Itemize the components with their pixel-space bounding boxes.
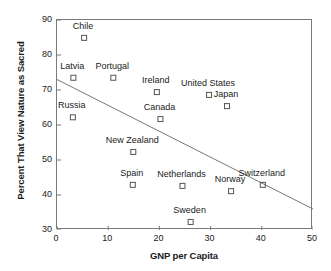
data-point-label: Chile — [73, 22, 94, 31]
scatter-chart-figure: Percent That View Nature as Sacred 30405… — [0, 0, 331, 271]
data-point-label: Portugal — [96, 62, 130, 71]
data-point-marker[interactable] — [207, 92, 212, 97]
data-point-marker[interactable] — [130, 182, 135, 187]
data-point-marker[interactable] — [224, 104, 229, 109]
data-point-marker[interactable] — [180, 183, 185, 188]
data-point-marker[interactable] — [82, 35, 87, 40]
data-point-label: Spain — [120, 169, 143, 178]
y-axis-tick-label: 90 — [26, 15, 52, 24]
data-point-label: Switzerland — [239, 169, 286, 178]
y-axis-tick-label: 80 — [26, 50, 52, 59]
x-axis-tick-label: 0 — [41, 234, 71, 243]
data-point-label: United States — [181, 79, 235, 88]
y-axis-tick-label: 70 — [26, 85, 52, 94]
y-axis-tick-label: 40 — [26, 190, 52, 199]
data-point-marker[interactable] — [154, 90, 159, 95]
x-axis-tick-label: 10 — [92, 234, 122, 243]
x-axis-tick-label: 50 — [297, 234, 327, 243]
y-axis-tick-label: 60 — [26, 120, 52, 129]
plot-area — [56, 19, 312, 229]
data-point-label: Latvia — [60, 62, 84, 71]
data-point-label: Russia — [58, 101, 86, 110]
data-point-label: Japan — [214, 90, 239, 99]
data-point-label: New Zealand — [106, 136, 159, 145]
y-axis-tick-label: 50 — [26, 155, 52, 164]
data-point-marker[interactable] — [229, 189, 234, 194]
data-point-label: Sweden — [173, 206, 206, 215]
data-point-marker[interactable] — [158, 117, 163, 122]
plot-canvas — [57, 20, 313, 230]
data-point-label: Canada — [144, 103, 176, 112]
x-axis-title: GNP per Capita — [56, 250, 312, 261]
data-point-marker[interactable] — [71, 75, 76, 80]
x-axis-tick-labels: 01020304050 — [56, 234, 312, 248]
x-axis-tick-label: 30 — [195, 234, 225, 243]
data-point-label: Netherlands — [157, 170, 206, 179]
data-point-marker[interactable] — [70, 115, 75, 120]
y-axis-tick-label: 30 — [26, 225, 52, 234]
data-point-marker[interactable] — [111, 75, 116, 80]
x-axis-tick-label: 40 — [246, 234, 276, 243]
data-point-label: Ireland — [142, 76, 170, 85]
data-point-marker[interactable] — [131, 149, 136, 154]
trend-line — [57, 80, 313, 210]
x-axis-tick-label: 20 — [143, 234, 173, 243]
data-point-marker[interactable] — [188, 219, 193, 224]
y-axis-tick-labels: 30405060708090 — [22, 0, 52, 271]
